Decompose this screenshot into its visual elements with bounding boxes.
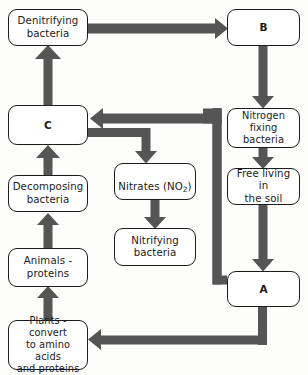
arrow-nitrogen-fixing-to-free-living [252, 148, 274, 169]
arrow-denitrifying-to-b [88, 18, 228, 39]
node-nitrifying-bacteria[interactable]: Nitrifying bacteria [114, 228, 196, 266]
node-plants[interactable]: Plants - convert to amino acids and prot… [8, 320, 88, 370]
arrow-c-to-nitrates [88, 128, 157, 164]
nitrogen-cycle-diagram: Denitrifying bacteria B C Nitrogen fixin… [0, 0, 308, 375]
nitrates-text: Nitrates (NO2) [118, 181, 191, 192]
node-label-c: C [41, 119, 55, 132]
node-label-decomposing-bacteria: Decomposing bacteria [10, 181, 87, 206]
arrow-animals-to-decomposing [37, 213, 59, 248]
node-label-b: B [256, 21, 270, 34]
node-label-animals-proteins: Animals - proteins [21, 255, 75, 280]
node-label-a: A [256, 283, 270, 296]
node-a[interactable]: A [227, 271, 300, 307]
node-label-free-living-in-the-soil: Free living in the soil [228, 168, 299, 205]
node-label-nitrogen-fixing-bacteria: Nitrogen fixing bacteria [228, 110, 299, 146]
node-animals-proteins[interactable]: Animals - proteins [8, 248, 88, 287]
node-nitrates[interactable]: Nitrates (NO2) [114, 163, 196, 200]
node-label-denitrifying-bacteria: Denitrifying bacteria [15, 15, 82, 40]
arrow-nitrates-to-nitrifying [144, 200, 166, 229]
node-denitrifying-bacteria[interactable]: Denitrifying bacteria [8, 9, 88, 46]
node-decomposing-bacteria[interactable]: Decomposing bacteria [8, 175, 88, 212]
node-b[interactable]: B [227, 9, 300, 46]
arrow-free-living-to-a [252, 205, 274, 272]
node-nitrogen-fixing-bacteria[interactable]: Nitrogen fixing bacteria [227, 108, 300, 148]
node-c[interactable]: C [8, 105, 88, 145]
node-label-nitrates: Nitrates (NO2) [115, 169, 194, 195]
node-label-nitrifying-bacteria: Nitrifying bacteria [128, 235, 182, 260]
arrow-decomposing-to-c [36, 145, 60, 175]
arrow-c-to-denitrifying [35, 45, 61, 105]
arrow-b-to-nitrogen-fixing [252, 46, 274, 109]
arrow-a-to-plants [88, 307, 267, 350]
node-label-plants: Plants - convert to amino acids and prot… [9, 315, 87, 375]
node-free-living-in-the-soil[interactable]: Free living in the soil [227, 168, 300, 205]
